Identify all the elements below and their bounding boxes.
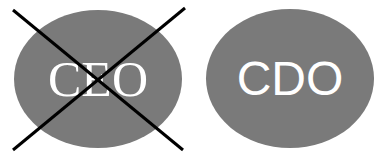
cdo-label: CDO xyxy=(237,55,344,103)
cdo-ellipse: CDO xyxy=(206,9,374,148)
